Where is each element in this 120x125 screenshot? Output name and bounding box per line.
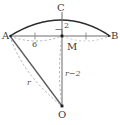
label-point-B: B [111, 31, 118, 41]
label-apothem-r-minus-2: r−2 [65, 70, 81, 78]
label-point-O: O [58, 110, 66, 120]
point-marker-A [9, 35, 11, 37]
figure-canvas [0, 0, 120, 125]
label-half-chord-6: 6 [32, 41, 37, 49]
label-point-M: M [67, 42, 77, 52]
arc-ACB [10, 20, 110, 36]
point-marker-O [61, 105, 64, 108]
label-point-A: A [2, 31, 9, 41]
geometry-figure: A B C M O 6 2 r r−2 [0, 0, 120, 125]
point-marker-B [108, 35, 110, 37]
label-radius-r: r [27, 79, 31, 87]
label-point-C: C [57, 3, 65, 13]
point-marker-M [61, 35, 64, 38]
label-sagitta-2: 2 [64, 22, 69, 30]
